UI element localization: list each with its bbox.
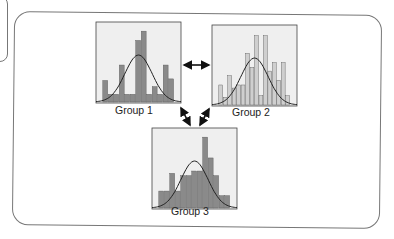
diagram-canvas	[0, 0, 394, 239]
histogram-group-3	[152, 128, 237, 209]
histogram-group-2	[212, 25, 297, 106]
arrow-g2-g3	[200, 109, 209, 125]
label-group-1: Group 1	[115, 104, 153, 116]
arrow-g1-g3	[181, 108, 190, 125]
histogram-group-1	[96, 22, 181, 103]
label-group-2: Group 2	[232, 106, 270, 118]
label-group-3: Group 3	[171, 205, 209, 217]
